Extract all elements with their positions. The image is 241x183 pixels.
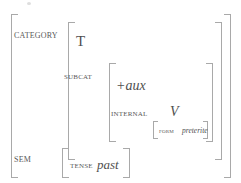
attribute-label-subcat: SUBCAT — [64, 70, 92, 81]
avm-figure: CATEGORY T SUBCAT +aux INTERNAL V FORM p… — [0, 0, 241, 183]
category-bracket-left — [68, 22, 75, 160]
category-bracket-right — [215, 22, 222, 160]
scan-artifact-speck — [27, 2, 31, 5]
outer-bracket-right — [224, 14, 231, 178]
attribute-label-sem: SEM — [14, 152, 31, 164]
sem-bracket-right — [123, 148, 130, 178]
subcat-aux-feature: +aux — [116, 78, 146, 94]
attribute-label-internal: INTERNAL — [111, 108, 148, 118]
attribute-label-category: CATEGORY — [14, 28, 58, 40]
subcat-bracket-left — [109, 63, 116, 142]
category-head-value: T — [76, 33, 85, 50]
internal-category-value: V — [170, 104, 179, 120]
form-value: preterite — [182, 126, 208, 135]
attribute-label-tense: TENSE — [70, 160, 93, 170]
form-bracket-left — [153, 121, 158, 139]
tense-value: past — [97, 157, 119, 173]
attribute-label-form: FORM — [159, 126, 174, 135]
sem-bracket-left — [62, 148, 69, 178]
